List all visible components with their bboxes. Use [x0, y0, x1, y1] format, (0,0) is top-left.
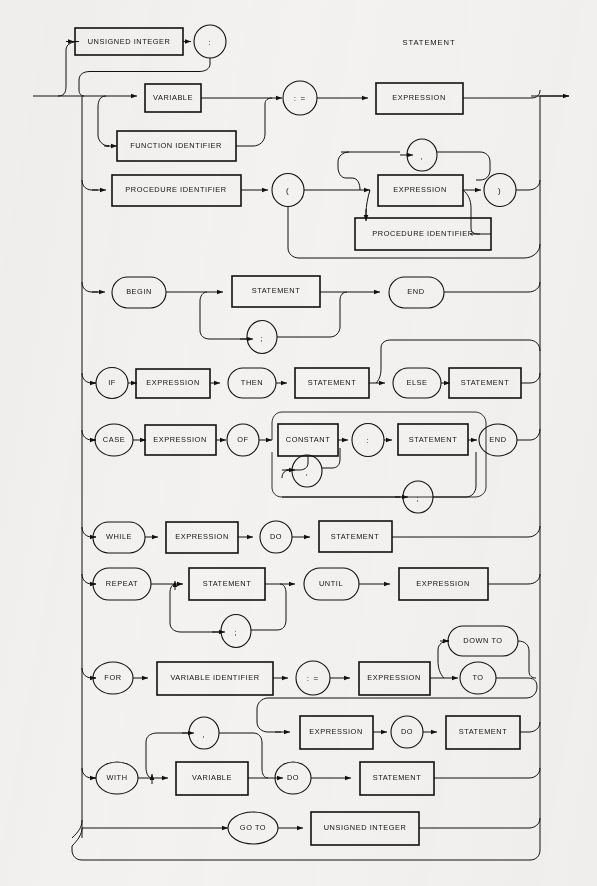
node-label-expression-if: EXPRESSION	[146, 378, 200, 387]
page-title: STATEMENT	[403, 38, 456, 47]
node-label-expression-repeat: EXPRESSION	[416, 579, 470, 588]
node-label-comma-args: ,	[420, 152, 423, 161]
node-label-until: UNTIL	[319, 579, 343, 588]
node-label-semicolon-repeat: ;	[234, 628, 237, 637]
node-label-function-identifier: FUNCTION IDENTIFIER	[130, 141, 222, 150]
node-label-with: WITH	[106, 773, 127, 782]
node-label-statement-with: STATEMENT	[373, 773, 422, 782]
node-label-statement-for: STATEMENT	[459, 727, 508, 736]
node-label-statement-compound: STATEMENT	[252, 286, 301, 295]
node-label-statement-else: STATEMENT	[461, 378, 510, 387]
node-label-if: IF	[108, 378, 116, 387]
node-label-unsigned-integer-goto: UNSIGNED INTEGER	[324, 823, 407, 832]
node-label-expression-arg: EXPRESSION	[393, 185, 447, 194]
node-label-comma-case: ,	[305, 468, 308, 477]
node-label-semicolon-case: ;	[416, 494, 419, 503]
node-label-expression-for-start: EXPRESSION	[367, 673, 421, 682]
node-label-lparen: (	[286, 186, 290, 195]
node-label-expression-case: EXPRESSION	[153, 435, 207, 444]
diagram-canvas: STATEMENT UNSIGNED INTEGER : VARIABLE FU…	[0, 0, 597, 886]
node-label-for: FOR	[104, 673, 121, 682]
node-label-do-for: DO	[401, 727, 413, 736]
node-label-expression-assign: EXPRESSION	[392, 93, 446, 102]
node-label-down-to: DOWN TO	[463, 636, 502, 645]
node-label-statement-then: STATEMENT	[308, 378, 357, 387]
node-label-comma-with: ,	[202, 730, 205, 739]
node-label-constant: CONSTANT	[286, 435, 331, 444]
node-label-end-compound: END	[407, 287, 424, 296]
node-label-procedure-identifier-arg: PROCEDURE IDENTIFIER	[372, 229, 473, 238]
node-label-variable-identifier: VARIABLE IDENTIFIER	[170, 673, 259, 682]
node-label-rparen: )	[498, 186, 502, 195]
node-label-do-with: DO	[287, 773, 299, 782]
node-label-expression-while: EXPRESSION	[175, 532, 229, 541]
node-label-case: CASE	[103, 435, 125, 444]
node-label-colon-case: :	[366, 436, 369, 445]
node-label-semicolon-compound: ;	[260, 334, 263, 343]
node-label-do-while: DO	[270, 532, 282, 541]
node-label-else: ELSE	[406, 378, 427, 387]
node-label-begin: BEGIN	[126, 287, 152, 296]
node-label-expression-for-end: EXPRESSION	[309, 727, 363, 736]
node-label-assign: : =	[294, 94, 307, 103]
node-label-of: OF	[237, 435, 248, 444]
node-label-assign-for: : =	[307, 674, 320, 683]
node-label-colon: :	[208, 38, 211, 47]
node-label-statement-case: STATEMENT	[409, 435, 458, 444]
statement-syntax-diagram: STATEMENT UNSIGNED INTEGER : VARIABLE FU…	[0, 0, 597, 886]
node-label-to: TO	[472, 673, 483, 682]
node-label-repeat: REPEAT	[106, 579, 138, 588]
node-label-while: WHILE	[106, 532, 132, 541]
node-label-go-to: GO TO	[240, 823, 266, 832]
node-label-statement-repeat: STATEMENT	[203, 579, 252, 588]
node-label-then: THEN	[241, 378, 263, 387]
node-label-variable: VARIABLE	[153, 93, 193, 102]
node-label-variable-with: VARIABLE	[192, 773, 232, 782]
node-label-end-case: END	[489, 435, 506, 444]
node-label-statement-while: STATEMENT	[331, 532, 380, 541]
node-label-procedure-identifier: PROCEDURE IDENTIFIER	[125, 185, 226, 194]
node-label-unsigned-integer: UNSIGNED INTEGER	[88, 37, 171, 46]
